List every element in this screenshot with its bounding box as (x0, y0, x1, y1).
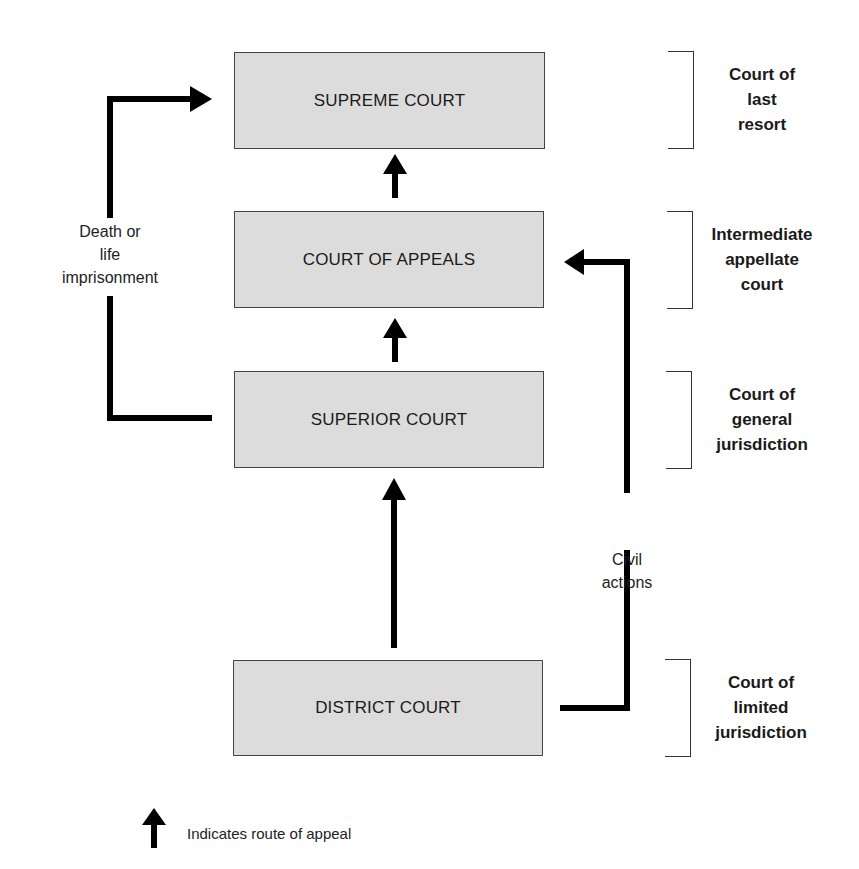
arrow-superior-to-appeals (383, 318, 407, 338)
district-court-box: DISTRICT COURT (233, 660, 543, 756)
tier-label-last-resort: Court oflastresort (697, 62, 827, 137)
superior-court-box: SUPERIOR COURT (234, 371, 544, 468)
up-arrow-icon (142, 808, 166, 848)
civil-actions-note: Civilactions (592, 548, 662, 594)
supreme-court-label: SUPREME COURT (314, 91, 466, 111)
tier-label-intermediate: Intermediateappellatecourt (697, 222, 827, 297)
civil-route-line-bottom (560, 705, 630, 711)
death-route-line-lower (107, 296, 113, 421)
civil-route-line-upper (624, 259, 630, 493)
court-structure-diagram: SUPREME COURT COURT OF APPEALS SUPERIOR … (0, 0, 859, 869)
arrow-district-to-superior (382, 478, 406, 500)
death-route-line-top (107, 96, 192, 102)
tier-label-limited: Court oflimitedjurisdiction (696, 670, 826, 745)
supreme-court-box: SUPREME COURT (234, 52, 545, 149)
civil-route-arrowhead (564, 249, 584, 275)
tier-bracket (665, 659, 691, 757)
district-court-label: DISTRICT COURT (315, 698, 461, 718)
court-of-appeals-box: COURT OF APPEALS (234, 211, 544, 308)
death-route-line-upper (107, 96, 113, 218)
tier-bracket (666, 371, 692, 469)
superior-court-label: SUPERIOR COURT (311, 410, 467, 430)
tier-label-general: Court ofgeneraljurisdiction (697, 382, 827, 457)
civil-route-line-top (580, 259, 630, 265)
court-of-appeals-label: COURT OF APPEALS (303, 250, 476, 270)
death-route-line-bottom (107, 415, 212, 421)
tier-bracket (667, 211, 693, 309)
arrow-appeals-to-supreme (383, 154, 407, 174)
tier-bracket (668, 51, 694, 149)
legend-text: Indicates route of appeal (187, 825, 351, 842)
death-route-arrowhead (190, 86, 212, 112)
death-or-life-note: Death orlifeimprisonment (55, 220, 165, 289)
